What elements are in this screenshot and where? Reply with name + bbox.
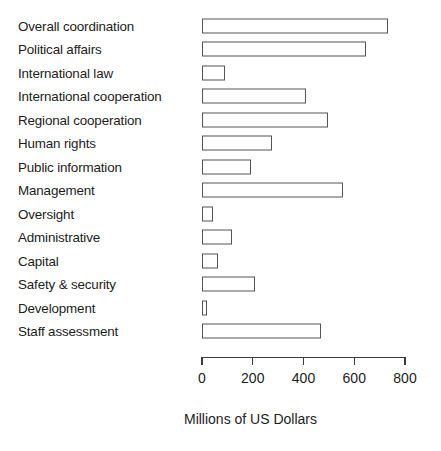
bar-row: Regional cooperation [0, 108, 441, 132]
bar-chart: Overall coordinationPolitical affairsInt… [0, 0, 441, 451]
category-label: International law [18, 65, 113, 80]
bar [202, 300, 207, 315]
bar [202, 65, 225, 80]
x-axis-tick-label: 400 [292, 370, 315, 387]
x-axis-tick-label: 200 [241, 370, 264, 387]
bar-row: Oversight [0, 202, 441, 226]
x-axis-tick [201, 357, 202, 365]
bar [202, 42, 366, 57]
category-label: Public information [18, 159, 122, 174]
bar-row: Safety & security [0, 273, 441, 297]
bar [202, 183, 343, 198]
plot-area: Overall coordinationPolitical affairsInt… [0, 14, 441, 345]
x-axis [0, 357, 441, 371]
category-label: Oversight [18, 206, 74, 221]
x-axis-tick-labels: 0200400600800 [0, 370, 441, 390]
bar-row: International law [0, 61, 441, 85]
bar-row: Management [0, 179, 441, 203]
x-axis-tick [404, 357, 405, 365]
bar-row: Political affairs [0, 38, 441, 62]
bar [202, 277, 255, 292]
category-label: Capital [18, 253, 59, 268]
category-label: Staff assessment [18, 324, 118, 339]
x-axis-tick [303, 357, 304, 365]
bar-row: Human rights [0, 132, 441, 156]
category-label: Political affairs [18, 42, 102, 57]
category-label: Development [18, 300, 95, 315]
bar [202, 253, 218, 268]
bar-row: Administrative [0, 226, 441, 250]
bar [202, 230, 232, 245]
bar [202, 18, 388, 33]
category-label: Regional cooperation [18, 112, 142, 127]
bar-row: Overall coordination [0, 14, 441, 38]
x-axis-tick-label: 600 [343, 370, 366, 387]
bar [202, 136, 272, 151]
bar-row: International cooperation [0, 85, 441, 109]
category-label: Human rights [18, 136, 96, 151]
bar [202, 324, 321, 339]
x-axis-title: Millions of US Dollars [0, 410, 441, 428]
category-label: International cooperation [18, 89, 162, 104]
bar-row: Staff assessment [0, 320, 441, 344]
bar-row: Capital [0, 249, 441, 273]
x-axis-tick-label: 0 [198, 370, 206, 387]
bar-row: Development [0, 296, 441, 320]
category-label: Safety & security [18, 277, 116, 292]
category-label: Management [18, 183, 95, 198]
bar [202, 89, 306, 104]
category-label: Overall coordination [18, 18, 134, 33]
x-axis-tick-label: 800 [393, 370, 416, 387]
x-axis-tick [252, 357, 253, 365]
category-label: Administrative [18, 230, 100, 245]
bar [202, 159, 251, 174]
bar [202, 112, 328, 127]
bar [202, 206, 213, 221]
x-axis-tick [354, 357, 355, 365]
x-axis-title-text: Millions of US Dollars [184, 410, 317, 428]
bar-row: Public information [0, 155, 441, 179]
